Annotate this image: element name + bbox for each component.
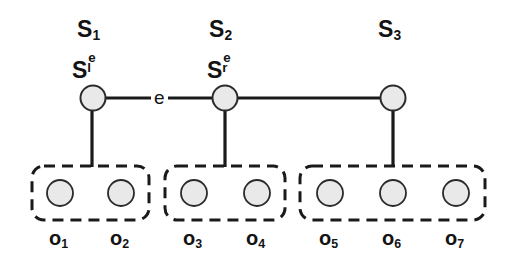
leaf-label-o7-sub: 7 [457,237,464,251]
leaf-label-o1-sub: 1 [61,237,68,251]
endpoint-label-sr-affixes: re [222,55,234,78]
leaf-label-o2-sub: 2 [122,237,129,251]
set-label-s2-base: S [209,16,224,42]
leaf-node-o4[interactable] [244,180,270,206]
leaf-label-o4: o4 [246,228,265,248]
set-label-s1-sub: 1 [92,28,100,43]
set-label-s1: S1 [77,18,100,41]
leaf-node-o7[interactable] [443,180,469,206]
set-label-s3: S3 [378,18,401,41]
leaf-node-o2[interactable] [108,180,134,206]
set-label-s2-sub: 2 [224,28,232,43]
leaf-label-o3: o3 [183,228,202,248]
leaf-node-o3[interactable] [181,180,207,206]
edge-label-e: e [151,88,168,107]
leaf-node-o1[interactable] [47,180,73,206]
set-label-s3-sub: 3 [393,28,401,43]
endpoint-label-sr-e: Sre [207,55,234,82]
connector-layer [92,110,393,167]
leaf-label-o1-base: o [49,227,61,249]
leaf-label-o2: o2 [110,228,129,248]
leaf-label-o4-sub: 4 [258,237,265,251]
endpoint-label-sl-sup: e [88,51,95,64]
endpoint-label-sl-base: S [72,57,87,83]
endpoint-label-sl-affixes: le [87,55,99,78]
endpoint-label-sr-sup: e [223,51,230,64]
leaf-label-o2-base: o [110,227,122,249]
leaf-label-o5-base: o [319,227,331,249]
leaf-label-o6-base: o [382,227,394,249]
leaf-node-o5[interactable] [317,180,343,206]
leaf-label-o4-base: o [246,227,258,249]
top-node-3[interactable] [381,86,406,111]
leaf-label-o3-base: o [183,227,195,249]
endpoint-label-sl-e: Sle [72,55,99,82]
leaf-node-o6[interactable] [380,180,406,206]
leaf-label-o1: o1 [49,228,68,248]
set-label-s3-base: S [378,16,393,42]
top-node-2[interactable] [213,86,238,111]
leaf-label-o6: o6 [382,228,401,248]
leaf-node-layer [47,180,469,206]
top-node-1[interactable] [81,86,106,111]
leaf-label-o6-sub: 6 [394,237,401,251]
set-hierarchy-diagram: S1 S2 S3 Sle Sre e o1 o2 o3 o4 o5 o6 o7 [0,0,510,273]
leaf-label-o3-sub: 3 [195,237,202,251]
leaf-label-o5-sub: 5 [331,237,338,251]
leaf-label-o7-base: o [445,227,457,249]
leaf-label-o7: o7 [445,228,464,248]
set-label-s2: S2 [209,18,232,41]
endpoint-label-sr-base: S [207,57,222,83]
set-label-s1-base: S [77,16,92,42]
leaf-label-o5: o5 [319,228,338,248]
